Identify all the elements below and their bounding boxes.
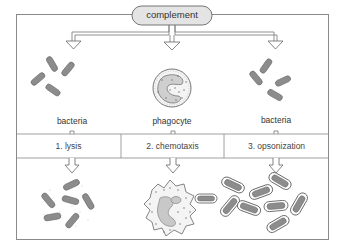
bacteria-right-icon [249, 58, 292, 102]
phagocyte-icon [153, 69, 191, 107]
branch-connector [72, 25, 277, 42]
target-label-bacteria-left: bacteria [42, 116, 102, 126]
lysed-bacteria-icon [41, 178, 96, 229]
complement-label: complement [132, 9, 212, 20]
bacteria-left-icon [30, 56, 75, 97]
phagocyte-engulfing-icon [144, 180, 217, 236]
target-label-bacteria-right: bacteria [246, 115, 306, 125]
process-lysis: 1. lysis [16, 134, 121, 158]
arrow-down-icon [66, 41, 283, 50]
arrow-down-icon [65, 158, 283, 173]
process-opsonization: 3. opsonization [224, 134, 329, 158]
process-chemotaxis: 2. chemotaxis [121, 134, 224, 158]
target-label-phagocyte: phagocyte [142, 116, 202, 126]
opsonized-bacteria-icon [218, 171, 309, 235]
